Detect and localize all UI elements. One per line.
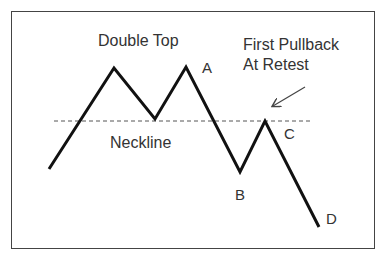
point-label-b: B: [235, 186, 245, 204]
pullback-arrow-icon: [273, 87, 305, 106]
neckline-label: Neckline: [110, 134, 171, 152]
point-label-a: A: [202, 59, 212, 77]
diagram-title: Double Top: [98, 32, 179, 50]
point-label-d: D: [326, 210, 337, 228]
point-label-c: C: [284, 125, 295, 143]
price-path-line: [49, 67, 319, 227]
annotation-line2: At Retest: [243, 56, 309, 74]
annotation-line1: First Pullback: [243, 36, 339, 54]
